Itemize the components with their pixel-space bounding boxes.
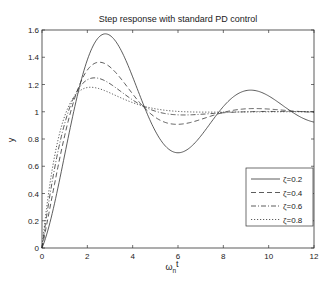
- legend-label: ζ=0.6: [283, 202, 303, 211]
- legend-label: ζ=0.4: [283, 189, 303, 198]
- y-tick-label: 1.2: [28, 81, 40, 90]
- y-tick-label: 0.2: [28, 217, 40, 226]
- y-tick-label: 1.4: [28, 53, 40, 62]
- chart-title: Step response with standard PD control: [99, 14, 258, 24]
- x-tick-label: 10: [264, 252, 273, 261]
- x-tick-label: 0: [40, 252, 45, 261]
- legend: ζ=0.2ζ=0.4ζ=0.6ζ=0.8: [246, 168, 313, 226]
- x-tick-label: 4: [130, 252, 135, 261]
- y-tick-label: 0: [35, 244, 40, 253]
- x-tick-label: 8: [221, 252, 226, 261]
- y-tick-label: 1: [35, 108, 40, 117]
- x-label-omega: ω: [165, 262, 172, 272]
- y-axis-label: y: [6, 137, 16, 142]
- y-tick-label: 0.6: [28, 162, 40, 171]
- y-tick-label: 0.4: [28, 190, 40, 199]
- x-axis-label: ωnt: [165, 259, 179, 274]
- legend-label: ζ=0.8: [283, 216, 303, 225]
- legend-label: ζ=0.2: [283, 175, 303, 184]
- svg-text:ωnt: ωnt: [165, 259, 179, 274]
- step-response-figure: Step response with standard PD control 0…: [0, 0, 336, 285]
- y-tick-label: 1.6: [28, 26, 40, 35]
- x-tick-label: 12: [310, 252, 319, 261]
- x-tick-label: 2: [85, 252, 90, 261]
- legend-box: [246, 168, 313, 226]
- y-tick-label: 0.8: [28, 135, 40, 144]
